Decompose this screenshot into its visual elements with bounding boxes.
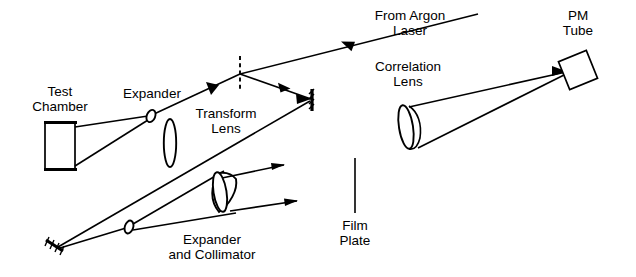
beam-test-chamber-to-expander: [75, 116, 148, 166]
beam-lower-mirror-to-expander: [60, 228, 126, 248]
expander-top-lens: [145, 108, 158, 123]
label-test-chamber: Test Chamber: [18, 84, 102, 114]
label-film-plate: Film Plate: [329, 218, 381, 248]
transform-lens: [164, 119, 176, 167]
label-expander-and-collimator: Expander and Collimator: [137, 232, 287, 262]
beam-collimated-upper: [222, 163, 285, 178]
label-pm-tube: PM Tube: [548, 8, 608, 38]
label-transform-lens: Transform Lens: [178, 106, 274, 136]
label-correlation-lens: Correlation Lens: [352, 59, 464, 89]
label-from-argon-laser: From Argon Laser: [357, 8, 463, 38]
optics-drawing: [0, 0, 636, 277]
test-chamber-box: [44, 122, 77, 170]
pm-tube-box: [558, 50, 597, 89]
beam-collimated-lower: [230, 199, 298, 212]
correlation-lens: [396, 104, 421, 150]
optical-diagram: From Argon Laser PM Tube Correlation Len…: [0, 0, 636, 277]
beam-splitter-to-mirror: [240, 74, 311, 99]
label-expander-top: Expander: [109, 86, 195, 101]
expander-collimator-small-lens: [123, 219, 135, 234]
